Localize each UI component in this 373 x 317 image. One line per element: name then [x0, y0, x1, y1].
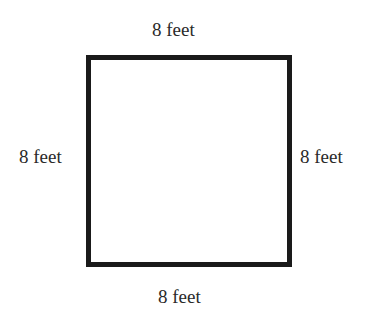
right-side-label: 8 feet: [300, 147, 343, 166]
bottom-side-label: 8 feet: [158, 287, 201, 306]
top-side-label: 8 feet: [152, 20, 195, 39]
left-side-label: 8 feet: [19, 147, 62, 166]
square-shape: [86, 55, 292, 267]
